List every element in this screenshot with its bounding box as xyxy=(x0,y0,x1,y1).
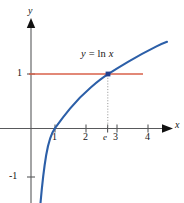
x-axis-arrowhead xyxy=(162,124,173,133)
curve-label-lhs: y xyxy=(81,48,86,59)
curve-equation-label: y=lnx xyxy=(81,49,113,60)
x-axis-label: x xyxy=(175,120,179,130)
plot-canvas xyxy=(0,0,184,203)
x-tick-label-3: 3 xyxy=(113,132,118,142)
x-tick-label-1: 1 xyxy=(52,132,57,142)
y-tick-label-neg1: -1 xyxy=(9,171,17,181)
curve-label-function: ln xyxy=(98,48,106,59)
curve-label-argument: x xyxy=(109,48,114,59)
x-tick-label-4: 4 xyxy=(145,132,150,142)
ln-curve xyxy=(41,42,168,203)
x-tick-label-e: e xyxy=(103,133,107,142)
x-tick-label-2: 2 xyxy=(83,132,88,142)
log-function-figure: y x 1 -1 1 2 e 3 4 y=lnx xyxy=(0,0,184,203)
y-tick-label-1: 1 xyxy=(17,68,22,78)
curve-label-equals: = xyxy=(89,48,95,59)
y-axis-label: y xyxy=(28,6,32,16)
point-e-1 xyxy=(106,72,111,77)
y-axis-arrowhead xyxy=(27,18,35,28)
